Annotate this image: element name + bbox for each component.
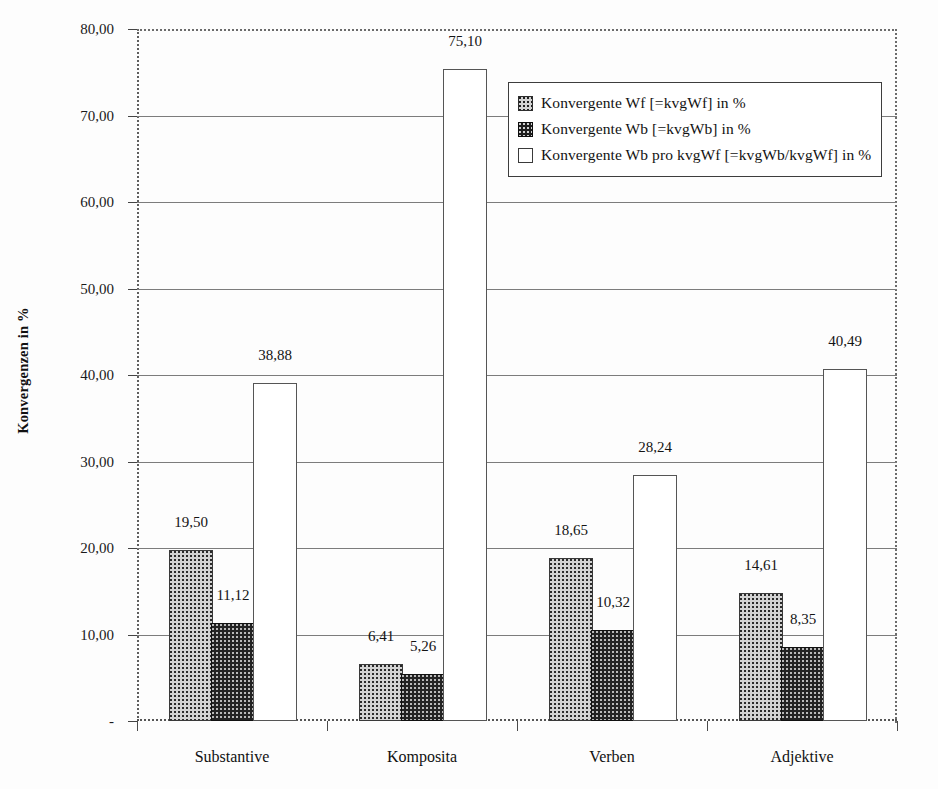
bar[interactable]: 10,32 bbox=[591, 630, 635, 721]
bar[interactable]: 28,24 bbox=[633, 475, 677, 721]
y-axis-tick-label: 50,00 bbox=[80, 280, 114, 297]
bar-value-label: 19,50 bbox=[174, 515, 208, 533]
y-axis-tick bbox=[128, 721, 137, 722]
legend-item[interactable]: Konvergente Wf [=kvgWf] in % bbox=[518, 90, 871, 116]
y-axis-tick-label: 60,00 bbox=[80, 194, 114, 211]
y-axis-tick-labels: -10,0020,0030,0040,0050,0060,0070,0080,0… bbox=[0, 29, 128, 721]
bar[interactable]: 14,61 bbox=[739, 593, 783, 721]
category-separator-tick bbox=[517, 721, 518, 731]
bar-value-label: 38,88 bbox=[258, 348, 292, 366]
bar[interactable]: 8,35 bbox=[781, 647, 825, 721]
category-separator-tick bbox=[707, 721, 708, 731]
y-axis-tick-label: 40,00 bbox=[80, 367, 114, 384]
category-separator-tick bbox=[897, 721, 898, 731]
y-axis-tick bbox=[128, 548, 137, 549]
y-axis-tick-label: 70,00 bbox=[80, 107, 114, 124]
legend-swatch-series-3 bbox=[518, 148, 533, 163]
y-axis-tick-label: 80,00 bbox=[80, 21, 114, 38]
legend-item-label: Konvergente Wb [=kvgWb] in % bbox=[541, 120, 751, 138]
x-axis-category-label: Adjektive bbox=[770, 748, 833, 766]
bar-value-label: 14,61 bbox=[744, 558, 778, 576]
bar-value-label: 5,26 bbox=[410, 639, 436, 657]
legend-item-label: Konvergente Wf [=kvgWf] in % bbox=[541, 94, 746, 112]
legend-item[interactable]: Konvergente Wb pro kvgWf [=kvgWb/kvgWf] … bbox=[518, 142, 871, 168]
bar-value-label: 10,32 bbox=[596, 595, 630, 613]
y-axis-tick bbox=[128, 635, 137, 636]
y-axis-tick bbox=[128, 375, 137, 376]
bar-value-label: 28,24 bbox=[638, 440, 672, 458]
y-axis-tick bbox=[128, 462, 137, 463]
x-axis-category-labels: SubstantiveKompositaVerbenAdjektive bbox=[137, 748, 897, 778]
bar[interactable]: 19,50 bbox=[169, 550, 213, 721]
legend-swatch-series-2 bbox=[518, 122, 533, 137]
y-axis-tick-label: 30,00 bbox=[80, 453, 114, 470]
bar[interactable]: 40,49 bbox=[823, 369, 867, 721]
bar-group: 6,415,2675,10 bbox=[327, 29, 517, 721]
chart-legend: Konvergente Wf [=kvgWf] in %Konvergente … bbox=[508, 82, 882, 177]
bar-value-label: 6,41 bbox=[368, 629, 394, 647]
bar-value-label: 18,65 bbox=[554, 523, 588, 541]
y-axis-tick-label: 20,00 bbox=[80, 540, 114, 557]
bar-value-label: 75,10 bbox=[448, 34, 482, 52]
bar-value-label: 40,49 bbox=[828, 334, 862, 352]
bar-chart-figure: Konvergenzen in % -10,0020,0030,0040,005… bbox=[0, 0, 938, 789]
bar[interactable]: 38,88 bbox=[253, 383, 297, 721]
legend-item-label: Konvergente Wb pro kvgWf [=kvgWb/kvgWf] … bbox=[541, 146, 871, 164]
category-separator-tick bbox=[137, 721, 138, 731]
bar-value-label: 8,35 bbox=[790, 612, 816, 630]
x-axis-category-label: Komposita bbox=[387, 748, 457, 766]
legend-swatch-series-1 bbox=[518, 96, 533, 111]
y-axis-tick bbox=[128, 116, 137, 117]
legend-item[interactable]: Konvergente Wb [=kvgWb] in % bbox=[518, 116, 871, 142]
bar[interactable]: 6,41 bbox=[359, 664, 403, 721]
bar[interactable]: 11,12 bbox=[211, 623, 255, 721]
y-axis-tick-label: 10,00 bbox=[80, 626, 114, 643]
x-axis-category-label: Substantive bbox=[195, 748, 270, 766]
x-axis-category-label: Verben bbox=[589, 748, 634, 766]
bar[interactable]: 18,65 bbox=[549, 558, 593, 721]
bar[interactable]: 75,10 bbox=[443, 69, 487, 721]
y-axis-tick bbox=[128, 29, 137, 30]
bar-group: 19,5011,1238,88 bbox=[137, 29, 327, 721]
y-axis-tick-label: - bbox=[109, 713, 114, 730]
bar[interactable]: 5,26 bbox=[401, 674, 445, 721]
bar-value-label: 11,12 bbox=[216, 588, 249, 606]
category-separator-tick bbox=[327, 721, 328, 731]
y-axis-tick bbox=[128, 202, 137, 203]
y-axis-tick bbox=[128, 289, 137, 290]
